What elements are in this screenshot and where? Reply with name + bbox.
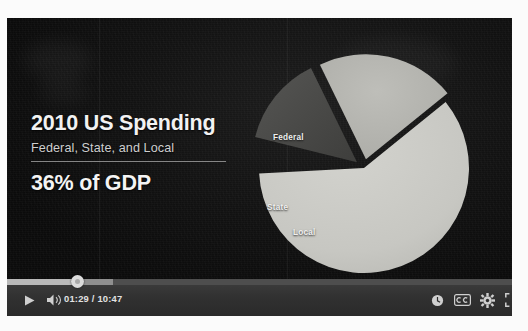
settings-button[interactable] bbox=[478, 292, 496, 308]
time-display: 01:29 / 10:47 bbox=[64, 293, 122, 304]
play-arrow-icon bbox=[23, 294, 36, 307]
progress-played bbox=[7, 279, 78, 285]
progress-handle[interactable] bbox=[71, 275, 84, 288]
pie-slice-group bbox=[255, 54, 469, 273]
pie-label-state: State bbox=[267, 203, 288, 212]
pie-label-federal: Federal bbox=[273, 133, 304, 142]
slide-subheadline: Federal, State, and Local bbox=[31, 141, 251, 155]
captions-button[interactable] bbox=[453, 292, 471, 308]
fullscreen-icon bbox=[505, 293, 512, 307]
pie-chart-svg bbox=[245, 38, 470, 283]
slide-text-block: 2010 US Spending Federal, State, and Loc… bbox=[31, 112, 251, 196]
closed-captions-icon bbox=[454, 294, 471, 306]
video-picture[interactable]: 2010 US Spending Federal, State, and Loc… bbox=[7, 18, 512, 316]
background-smudge bbox=[23, 40, 93, 80]
progress-scrubber-track[interactable] bbox=[7, 279, 512, 285]
slide-headline: 2010 US Spending bbox=[31, 112, 251, 135]
fullscreen-button[interactable] bbox=[503, 292, 512, 308]
volume-button[interactable] bbox=[45, 292, 63, 308]
volume-on-icon bbox=[46, 293, 63, 307]
player-control-bar[interactable]: 01:29 / 10:47 bbox=[7, 284, 512, 316]
clock-icon bbox=[431, 294, 444, 307]
screenshot-root: 2010 US Spending Federal, State, and Loc… bbox=[0, 0, 528, 331]
watch-later-button[interactable] bbox=[428, 292, 446, 308]
slide-gdp-statistic: 36% of GDP bbox=[31, 171, 251, 196]
video-player[interactable]: 2010 US Spending Federal, State, and Loc… bbox=[7, 18, 512, 316]
slide-divider bbox=[31, 161, 226, 162]
background-smudge bbox=[37, 76, 89, 106]
play-button[interactable] bbox=[20, 292, 38, 308]
pie-chart: Federal State Local bbox=[245, 38, 470, 283]
gear-icon bbox=[480, 293, 495, 308]
pie-label-local: Local bbox=[293, 228, 316, 237]
